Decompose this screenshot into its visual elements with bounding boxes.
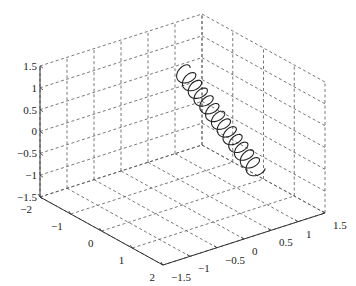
3d-plot: −1.5−1−0.500.511.5−2−1012−1.5−1−0.500.51… [0, 0, 356, 286]
x-tick-label: −2 [20, 203, 32, 215]
z-tick-label: 0 [32, 125, 38, 137]
axes [38, 66, 325, 265]
y-tick-label: −1 [198, 262, 210, 274]
y-tick-label: 1 [306, 228, 312, 240]
y-tick-label: 0.5 [279, 236, 293, 248]
grid-lines [40, 14, 325, 265]
y-tick-label: −0.5 [225, 254, 245, 266]
series-line-helix [177, 65, 266, 176]
x-tick-label: −1 [51, 220, 63, 232]
z-tick-label: −0.5 [17, 147, 37, 159]
tick-labels: −1.5−1−0.500.511.5−2−1012−1.5−1−0.500.51… [17, 60, 347, 283]
z-tick-label: 1.5 [23, 60, 37, 72]
grid-line [102, 179, 264, 231]
z-tick-label: −1.5 [17, 191, 37, 203]
z-tick-label: 1 [32, 82, 38, 94]
y-tick-label: 1.5 [333, 219, 347, 231]
x-tick-label: 2 [150, 271, 156, 283]
y-tick-label: −1.5 [171, 271, 191, 283]
z-tick-label: 0.5 [23, 104, 37, 116]
x-tick-label: 1 [119, 254, 125, 266]
x-tick-label: 0 [88, 237, 94, 249]
z-tick-label: −1 [25, 169, 37, 181]
y-tick-label: 0 [252, 245, 258, 257]
